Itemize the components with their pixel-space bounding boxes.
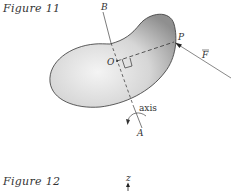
force-arrowhead: [175, 43, 182, 49]
rotation-arrow-icon: [128, 113, 146, 120]
axis-line-upper: [103, 12, 111, 43]
rotation-arrowhead: [126, 119, 130, 125]
figure-11-diagram: B O P F axis A z: [0, 0, 246, 191]
label-B: B: [100, 2, 108, 12]
label-F: F: [201, 50, 209, 60]
label-axis: axis: [139, 103, 157, 113]
label-O: O: [107, 57, 115, 67]
label-P: P: [177, 32, 185, 42]
label-z: z: [125, 173, 131, 183]
label-A: A: [136, 128, 144, 138]
point-O: [116, 60, 118, 62]
z-axis-arrowhead: [126, 183, 130, 188]
